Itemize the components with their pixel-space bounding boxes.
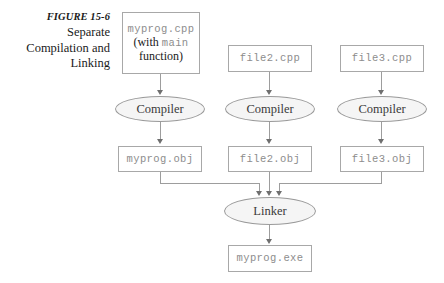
caption-line: Compilation and — [6, 41, 110, 57]
node-compiler-1-label: Compiler — [136, 102, 183, 117]
note-suffix: function) — [139, 50, 183, 63]
node-file3-obj-filename: file3.obj — [352, 153, 412, 166]
note-main-keyword: main — [162, 37, 189, 49]
node-myprog-exe: myprog.exe — [228, 245, 312, 272]
arrowhead-linker-to-myprog-exe — [266, 239, 272, 244]
node-compiler-1: Compiler — [115, 96, 205, 122]
node-compiler-3: Compiler — [337, 96, 427, 122]
connector-myprog-obj-drop — [160, 172, 161, 183]
figure-caption: FIGURE 15-6 Separate Compilation and Lin… — [6, 10, 110, 72]
figure-diagram: FIGURE 15-6 Separate Compilation and Lin… — [0, 0, 444, 283]
note-prefix: (with — [133, 35, 158, 49]
node-file2-cpp: file2.cpp — [228, 45, 312, 72]
arrowhead-compiler-to-myprog-obj — [157, 139, 163, 144]
node-file3-cpp-filename: file3.cpp — [352, 52, 412, 65]
caption-line: Linking — [6, 56, 110, 72]
node-myprog-cpp: myprog.cpp (with main function) — [122, 12, 200, 74]
arrowhead-file3-cpp-to-compiler — [378, 90, 384, 95]
node-linker-label: Linker — [253, 204, 286, 219]
connector-compiler-to-file2-obj — [269, 122, 270, 140]
node-compiler-2-label: Compiler — [246, 102, 293, 117]
arrowhead-file2-obj-to-linker — [266, 191, 272, 196]
node-myprog-obj: myprog.obj — [118, 146, 202, 172]
node-myprog-cpp-note: (with main — [133, 36, 188, 50]
connector-compiler-to-file3-obj — [381, 122, 382, 140]
arrowhead-myprog-obj-to-linker — [256, 191, 262, 196]
node-myprog-obj-filename: myprog.obj — [126, 153, 193, 166]
node-file3-cpp: file3.cpp — [340, 45, 424, 72]
node-myprog-exe-filename: myprog.exe — [236, 252, 303, 265]
arrowhead-compiler-to-file3-obj — [378, 139, 384, 144]
connector-file3-obj-drop — [381, 172, 382, 183]
node-linker: Linker — [224, 197, 316, 225]
node-compiler-3-label: Compiler — [358, 102, 405, 117]
arrowhead-file2-cpp-to-compiler — [266, 90, 272, 95]
connector-file3-obj-bus — [279, 183, 382, 184]
node-compiler-2: Compiler — [225, 96, 315, 122]
connector-file2-obj-to-linker — [269, 172, 270, 192]
arrowhead-myprog-cpp-to-compiler — [157, 90, 163, 95]
connector-compiler-to-myprog-obj — [160, 122, 161, 140]
node-file2-obj: file2.obj — [228, 146, 312, 172]
figure-number-label: FIGURE 15-6 — [6, 10, 110, 23]
figure-caption-text: Separate Compilation and Linking — [6, 25, 110, 72]
connector-file2-cpp-to-compiler — [269, 72, 270, 91]
node-file3-obj: file3.obj — [340, 146, 424, 172]
node-file2-obj-filename: file2.obj — [240, 153, 300, 166]
connector-linker-to-myprog-exe — [269, 225, 270, 240]
connector-file3-cpp-to-compiler — [381, 72, 382, 91]
arrowhead-compiler-to-file2-obj — [266, 139, 272, 144]
connector-myprog-obj-bus — [160, 183, 259, 184]
arrowhead-file3-obj-to-linker — [276, 191, 282, 196]
node-file2-cpp-filename: file2.cpp — [240, 52, 300, 65]
caption-line: Separate — [6, 25, 110, 41]
